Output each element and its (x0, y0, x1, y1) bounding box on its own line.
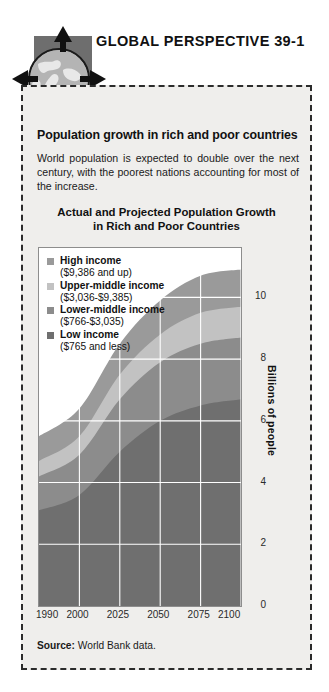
x-tick-2025: 2025 (107, 609, 129, 621)
x-tick-2000: 2000 (66, 609, 88, 621)
legend-range-low-income: ($765 and less) (60, 341, 197, 353)
arrow-right-stem (80, 76, 92, 82)
legend-item-upper-middle-income: Upper-middle income ($3,036-$9,385) (47, 280, 197, 305)
legend-label-low-income: Low income (60, 329, 197, 341)
arrow-left-stem (26, 76, 38, 82)
legend-range-upper-middle-income: ($3,036-$9,385) (60, 292, 197, 304)
legend-label-high-income: High income (60, 255, 197, 267)
x-tick-2075: 2075 (188, 609, 210, 621)
legend-range-high-income: ($9,386 and up) (60, 267, 197, 279)
y-tick-2: 2 (260, 538, 266, 548)
x-tick-2100: 2100 (218, 609, 240, 621)
legend-label-lower-middle-income: Lower-middle income (60, 304, 197, 316)
x-axis-tick-labels: 199020002025205020752100 (38, 609, 250, 625)
legend-item-high-income: High income ($9,386 and up) (47, 255, 197, 280)
panel-title: Population growth in rich and poor count… (37, 128, 298, 142)
legend-swatch-lower-middle-income (47, 307, 54, 314)
y-tick-0: 0 (260, 600, 266, 610)
chart: High income ($9,386 and up) Upper-middle… (38, 247, 298, 642)
dashed-panel: Population growth in rich and poor count… (21, 85, 312, 670)
chart-legend: High income ($9,386 and up) Upper-middle… (47, 255, 197, 353)
x-tick-1990: 1990 (36, 609, 58, 621)
panel-body-text: World population is expected to double o… (37, 151, 299, 194)
legend-range-lower-middle-income: ($766-$3,035) (60, 316, 197, 328)
source-label: Source: (37, 640, 75, 651)
arrow-up-stem (60, 40, 66, 52)
y-tick-8: 8 (260, 353, 266, 363)
y-axis-title: Billions of people (266, 365, 278, 456)
global-perspective-label: GLOBAL PERSPECTIVE 39-1 (96, 33, 305, 49)
chart-title: Actual and Projected Population Growth i… (23, 205, 310, 233)
chart-title-line2: in Rich and Poor Countries (23, 219, 310, 233)
legend-item-lower-middle-income: Lower-middle income ($766-$3,035) (47, 304, 197, 329)
x-tick-2050: 2050 (147, 609, 169, 621)
legend-label-upper-middle-income: Upper-middle income (60, 280, 197, 292)
legend-swatch-upper-middle-income (47, 283, 54, 290)
global-perspective-figure: GLOBAL PERSPECTIVE 39-1 Population growt… (0, 0, 329, 692)
legend-item-low-income: Low income ($765 and less) (47, 329, 197, 354)
figure-header: GLOBAL PERSPECTIVE 39-1 (0, 0, 329, 92)
source-text: World Bank data. (78, 640, 156, 651)
legend-swatch-high-income (47, 258, 54, 265)
legend-swatch-low-income (47, 332, 54, 339)
y-tick-4: 4 (260, 477, 266, 487)
chart-title-line1: Actual and Projected Population Growth (23, 205, 310, 219)
y-tick-10: 10 (255, 291, 266, 301)
source-line: Source: World Bank data. (37, 640, 156, 651)
